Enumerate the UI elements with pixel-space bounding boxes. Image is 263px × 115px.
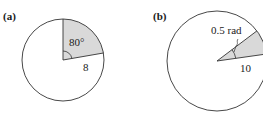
radius-label-b: 10 [240, 62, 251, 74]
figure-canvas [0, 0, 263, 115]
panel-a-diagram [22, 19, 104, 101]
angle-label-a: 80° [69, 36, 84, 48]
panel-b-label: (b) [153, 10, 166, 22]
radius-label-a: 8 [83, 61, 89, 73]
panel-a-label: (a) [3, 10, 16, 22]
angle-label-b: 0.5 rad [211, 24, 242, 36]
